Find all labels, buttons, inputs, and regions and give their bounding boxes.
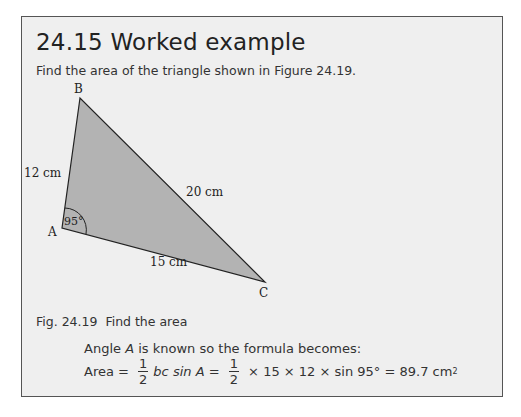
triangle-figure: B A C 12 cm 20 cm 15 cm 95° (0, 0, 521, 417)
vertex-label-a: A (47, 225, 57, 239)
side-label-ab: 12 cm (24, 166, 62, 180)
vertex-label-c: C (259, 286, 268, 300)
vertex-label-b: B (74, 82, 83, 96)
side-label-ac: 15 cm (150, 255, 188, 269)
side-label-bc: 20 cm (186, 185, 224, 199)
angle-label-a: 95° (64, 215, 84, 228)
